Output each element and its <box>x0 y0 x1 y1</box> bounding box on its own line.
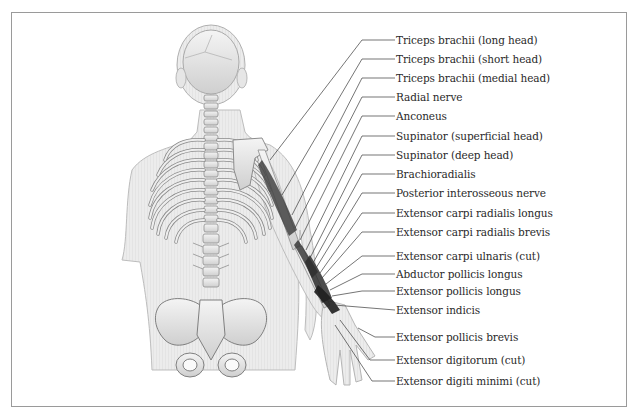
label-ecu-cut: Extensor carpi ulnaris (cut) <box>396 250 540 262</box>
label-brachioradialis: Brachioradialis <box>396 168 476 180</box>
label-posterior-interosseous-nerve: Posterior interosseous nerve <box>396 187 546 199</box>
label-triceps-long-head: Triceps brachii (long head) <box>396 34 538 46</box>
skull <box>176 25 247 105</box>
label-ecr-longus: Extensor carpi radialis longus <box>396 207 553 219</box>
label-supinator-deep: Supinator (deep head) <box>396 149 513 161</box>
label-triceps-medial-head: Triceps brachii (medial head) <box>396 72 550 84</box>
label-supinator-superficial: Supinator (superficial head) <box>396 130 543 142</box>
label-radial-nerve: Radial nerve <box>396 91 462 103</box>
label-extensor-indicis: Extensor indicis <box>396 304 480 316</box>
label-extensor-digitorum-cut: Extensor digitorum (cut) <box>396 354 525 366</box>
label-extensor-pollicis-brevis: Extensor pollicis brevis <box>396 331 518 343</box>
label-triceps-short-head: Triceps brachii (short head) <box>396 53 542 65</box>
label-abductor-pollicis-longus: Abductor pollicis longus <box>396 268 523 280</box>
label-extensor-digiti-minimi-cut: Extensor digiti minimi (cut) <box>396 375 540 387</box>
label-ecr-brevis: Extensor carpi radialis brevis <box>396 226 550 238</box>
label-anconeus: Anconeus <box>396 110 447 122</box>
label-extensor-pollicis-longus: Extensor pollicis longus <box>396 285 521 297</box>
